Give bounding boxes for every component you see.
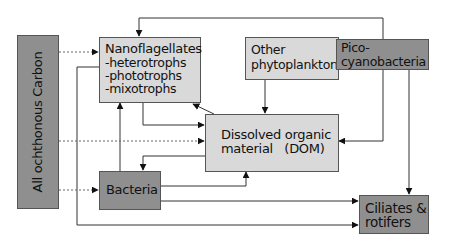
node-dom: Dissolved organic material (DOM) (205, 114, 339, 172)
node-other-phytoplankton: Other phytoplankton (245, 37, 339, 80)
edge-dom-to-nano (193, 104, 214, 114)
edge-pico-to-nano (139, 18, 383, 39)
edge-pico-to-dom (339, 70, 383, 141)
dom-label-0: Dissolved organic (221, 128, 338, 142)
phyto-label-0: Other (251, 42, 338, 57)
node-allochthonous-label: All ochthonous Carbon (32, 52, 44, 193)
pico-label-0: Pico- (341, 41, 428, 55)
node-nanoflagellates: Nanoflagellates -heterotrophs -phototrop… (99, 37, 201, 103)
node-bacteria: Bacteria (99, 171, 161, 210)
node-ciliates-rotifers: Ciliates & rotifers (359, 195, 429, 234)
phyto-label-1: phytoplankton (251, 57, 338, 72)
node-allochthonous-carbon: All ochthonous Carbon (17, 35, 59, 209)
food-web-diagram: All ochthonous Carbon Nanoflagellates -h… (0, 0, 449, 241)
edge-nano-to-dom (143, 102, 204, 125)
ciliates-label-1: rotifers (365, 215, 428, 229)
node-picocyanobacteria: Pico- cyanobacteria (336, 39, 429, 70)
edge-bacteria-to-dom (161, 172, 246, 186)
pico-label-1: cyanobacteria (341, 55, 428, 69)
nano-label-0: Nanoflagellates (105, 42, 200, 56)
edge-dom-to-bacteria (143, 156, 205, 170)
dom-label-1: material (DOM) (221, 142, 338, 156)
nano-label-3: -mixotrophs (105, 82, 200, 95)
ciliates-label-0: Ciliates & (365, 201, 428, 215)
bacteria-label: Bacteria (106, 184, 160, 196)
